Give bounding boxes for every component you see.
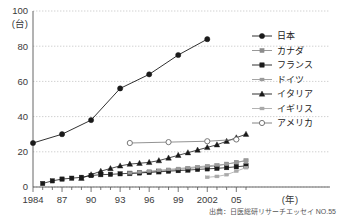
legend-label-ドイツ: ドイツ bbox=[277, 75, 304, 85]
datapoint-アメリカ-2 bbox=[205, 139, 210, 144]
legend-marker-アメリカ bbox=[259, 120, 264, 125]
datapoint-アメリカ-1 bbox=[166, 140, 171, 145]
datapoint-ドイツ-4 bbox=[166, 168, 170, 171]
series-アメリカ bbox=[127, 137, 239, 146]
datapoint-イギリス-3 bbox=[234, 170, 238, 173]
datapoint-フランス-1 bbox=[50, 179, 54, 183]
datapoint-アメリカ-3 bbox=[234, 137, 239, 142]
datapoint-イギリス-4 bbox=[244, 166, 248, 169]
x-axis-unit-label: (年) bbox=[282, 194, 298, 205]
legend-marker-イギリス bbox=[260, 107, 264, 110]
datapoint-ドイツ-0 bbox=[128, 171, 132, 174]
datapoint-日本-6 bbox=[205, 37, 210, 42]
x-tick-label-2002: 2002 bbox=[197, 194, 218, 205]
datapoint-フランス-18 bbox=[215, 166, 219, 170]
datapoint-ドイツ-1 bbox=[137, 171, 141, 174]
datapoint-ドイツ-3 bbox=[157, 169, 161, 172]
series-日本 bbox=[30, 37, 209, 146]
datapoint-ドイツ-9 bbox=[215, 164, 219, 167]
datapoint-イギリス-1 bbox=[215, 175, 219, 178]
legend-item-カナダ[interactable]: カナダ bbox=[252, 45, 304, 56]
datapoint-日本-3 bbox=[118, 86, 123, 91]
datapoint-フランス-8 bbox=[118, 172, 122, 176]
datapoint-フランス-19 bbox=[224, 165, 228, 169]
legend-label-日本: 日本 bbox=[277, 30, 295, 41]
x-tick-label-1990: 90 bbox=[86, 194, 97, 205]
y-tick-label-20: 20 bbox=[17, 146, 28, 157]
y-tick-label-80: 80 bbox=[17, 41, 28, 52]
datapoint-イギリス-0 bbox=[205, 176, 209, 179]
legend-item-イタリア[interactable]: イタリア bbox=[252, 89, 313, 99]
x-tick-label-1984: 1984 bbox=[22, 194, 43, 205]
datapoint-フランス-3 bbox=[70, 176, 74, 180]
legend-label-イタリア: イタリア bbox=[277, 89, 313, 99]
datapoint-日本-2 bbox=[88, 118, 93, 123]
y-axis-unit-label: (台) bbox=[12, 18, 28, 29]
legend-label-フランス: フランス bbox=[277, 60, 313, 70]
datapoint-日本-4 bbox=[147, 72, 152, 77]
datapoint-ドイツ-5 bbox=[176, 167, 180, 170]
datapoint-ドイツ-8 bbox=[205, 164, 209, 167]
legend-item-ドイツ[interactable]: ドイツ bbox=[252, 75, 304, 85]
legend-marker-カナダ bbox=[260, 48, 264, 52]
datapoint-フランス-7 bbox=[108, 172, 112, 176]
datapoint-ドイツ-7 bbox=[195, 165, 199, 168]
x-tick-label-1993: 93 bbox=[115, 194, 126, 205]
datapoint-ドイツ-10 bbox=[225, 163, 229, 166]
datapoint-フランス-0 bbox=[40, 181, 44, 185]
datapoint-ドイツ-6 bbox=[186, 166, 190, 169]
datapoint-日本-5 bbox=[176, 52, 181, 57]
datapoint-アメリカ-0 bbox=[127, 140, 132, 145]
y-tick-label-60: 60 bbox=[17, 76, 28, 87]
legend-marker-フランス bbox=[260, 63, 264, 67]
datapoint-日本-1 bbox=[59, 132, 64, 137]
x-tick-label-1996: 96 bbox=[144, 194, 155, 205]
y-tick-label-100: 100 bbox=[12, 5, 28, 16]
datapoint-イギリス-2 bbox=[225, 173, 229, 176]
datapoint-ドイツ-12 bbox=[244, 159, 248, 162]
legend-marker-ドイツ bbox=[260, 78, 264, 81]
series-フランス bbox=[40, 164, 248, 186]
chart-legend: 日本カナダフランスドイツイタリアイギリスアメリカ bbox=[252, 30, 313, 128]
y-tick-label-40: 40 bbox=[17, 111, 28, 122]
datapoint-ドイツ-2 bbox=[147, 170, 151, 173]
legend-item-イギリス[interactable]: イギリス bbox=[252, 104, 313, 114]
datapoint-ドイツ-11 bbox=[234, 161, 238, 164]
series-イタリア bbox=[79, 131, 249, 180]
legend-label-イギリス: イギリス bbox=[277, 104, 313, 114]
series-line-アメリカ bbox=[130, 139, 237, 143]
legend-marker-日本 bbox=[259, 33, 264, 38]
datapoint-フランス-20 bbox=[234, 165, 238, 169]
chart-container: 020406080100(台)19848790939699200205(年)日本… bbox=[0, 0, 340, 220]
datapoint-日本-0 bbox=[30, 140, 35, 145]
datapoint-フランス-2 bbox=[60, 177, 64, 181]
legend-item-日本[interactable]: 日本 bbox=[252, 30, 295, 41]
legend-label-カナダ: カナダ bbox=[277, 45, 304, 56]
y-tick-label-0: 0 bbox=[23, 181, 28, 192]
legend-item-フランス[interactable]: フランス bbox=[252, 60, 313, 70]
x-tick-label-1987: 87 bbox=[57, 194, 68, 205]
source-citation: 出典：日医総研リサーチエッセイ NO.55 bbox=[209, 207, 336, 216]
datapoint-イタリア-17 bbox=[243, 131, 249, 136]
x-tick-label-1999: 99 bbox=[173, 194, 184, 205]
legend-label-アメリカ: アメリカ bbox=[277, 118, 313, 128]
line-chart: 020406080100(台)19848790939699200205(年)日本… bbox=[0, 0, 340, 220]
legend-item-アメリカ[interactable]: アメリカ bbox=[252, 118, 313, 128]
x-tick-label-2005: 05 bbox=[231, 194, 242, 205]
